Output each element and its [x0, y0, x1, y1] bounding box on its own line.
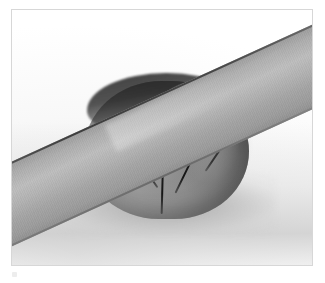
photograph	[12, 10, 312, 265]
photo-page	[0, 0, 325, 283]
photo-frame	[11, 9, 313, 266]
scan-artifact	[12, 272, 17, 277]
